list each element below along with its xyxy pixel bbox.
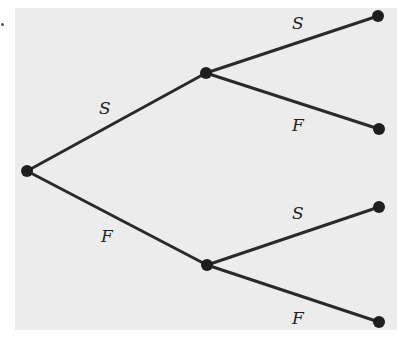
edge-label-lower-leaf-4: F [291, 308, 305, 328]
edge-root-to-lower [27, 171, 207, 265]
lower-middle-node [201, 259, 213, 271]
edge-label-root-upper: S [99, 98, 111, 118]
probability-tree: S F S F S F [0, 0, 397, 340]
edge-labels: S F S F S F [99, 13, 305, 328]
leaf-node-2 [373, 123, 385, 135]
leaf-node-1 [372, 10, 384, 22]
edge-label-lower-leaf-3: S [292, 203, 304, 223]
root-node [21, 165, 33, 177]
edge-label-root-lower: F [100, 226, 114, 246]
leaf-node-3 [373, 201, 385, 213]
edge-root-to-upper [27, 73, 206, 171]
edges [27, 16, 379, 322]
edge-label-upper-leaf-2: F [291, 115, 305, 135]
leaf-node-4 [373, 316, 385, 328]
edge-label-upper-leaf-1: S [292, 13, 304, 33]
upper-middle-node [200, 67, 212, 79]
nodes [21, 10, 385, 328]
